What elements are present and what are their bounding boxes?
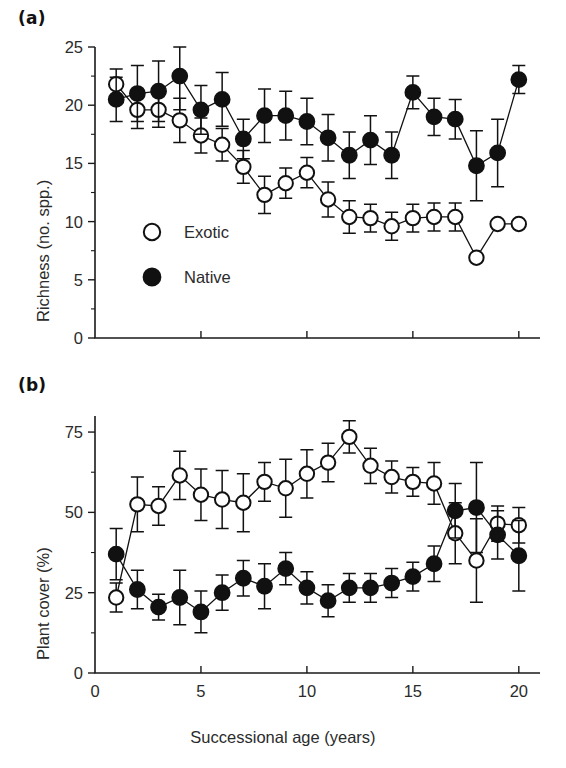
legend-label: Exotic xyxy=(184,223,229,241)
data-point-exotic xyxy=(363,211,377,225)
data-point-native xyxy=(172,69,187,84)
data-point-native xyxy=(215,92,230,107)
data-point-native xyxy=(299,580,314,595)
data-point-native xyxy=(469,158,484,173)
data-point-exotic xyxy=(469,250,483,264)
data-point-exotic xyxy=(448,210,462,224)
panel-b: 025507505101520 xyxy=(65,416,540,700)
x-tick-label: 10 xyxy=(298,682,316,700)
y-tick-label: 75 xyxy=(65,423,83,441)
y-tick-label: 5 xyxy=(74,271,83,289)
data-point-native xyxy=(151,84,166,99)
data-point-native xyxy=(321,593,336,608)
x-tick-label: 15 xyxy=(404,682,422,700)
data-point-exotic xyxy=(363,459,377,473)
x-tick-label: 5 xyxy=(196,682,205,700)
data-point-exotic xyxy=(279,481,293,495)
data-point-native xyxy=(384,575,399,590)
y-tick-label: 25 xyxy=(65,584,83,602)
data-point-native xyxy=(511,548,526,563)
data-point-native xyxy=(490,527,505,542)
data-point-native xyxy=(363,133,378,148)
data-point-exotic xyxy=(151,499,165,513)
data-point-native xyxy=(193,102,208,117)
data-point-native xyxy=(172,590,187,605)
data-point-native xyxy=(342,580,357,595)
x-tick-label: 20 xyxy=(510,682,528,700)
data-point-exotic xyxy=(406,211,420,225)
data-point-exotic xyxy=(342,430,356,444)
data-point-native xyxy=(469,500,484,515)
data-point-exotic xyxy=(173,468,187,482)
data-point-native xyxy=(384,148,399,163)
legend-marker-filled-circle-icon xyxy=(143,268,160,285)
y-tick-label: 10 xyxy=(65,213,83,231)
data-point-native xyxy=(151,600,166,615)
data-point-exotic xyxy=(469,553,483,567)
data-point-exotic xyxy=(279,176,293,190)
data-point-native xyxy=(426,109,441,124)
y-tick-label: 0 xyxy=(74,329,83,347)
data-point-exotic xyxy=(215,492,229,506)
data-point-exotic xyxy=(321,192,335,206)
y-tick-label: 0 xyxy=(74,664,83,682)
legend-item-exotic: Exotic xyxy=(144,223,229,241)
data-point-native xyxy=(109,547,124,562)
data-point-native xyxy=(511,72,526,87)
data-point-native xyxy=(342,148,357,163)
figure-root: (a) (b) Richness (no. spp.) Plant cover … xyxy=(0,0,566,768)
data-point-native xyxy=(321,130,336,145)
data-point-exotic xyxy=(427,210,441,224)
data-point-native xyxy=(109,92,124,107)
data-point-exotic xyxy=(130,497,144,511)
data-point-native xyxy=(299,114,314,129)
data-point-native xyxy=(130,86,145,101)
data-point-exotic xyxy=(236,160,250,174)
data-point-exotic xyxy=(490,217,504,231)
series-exotic xyxy=(109,69,526,265)
data-point-exotic xyxy=(384,470,398,484)
data-point-native xyxy=(236,131,251,146)
y-tick-label: 20 xyxy=(65,96,83,114)
data-point-exotic xyxy=(236,496,250,510)
legend-item-native: Native xyxy=(143,268,230,286)
data-point-exotic xyxy=(194,488,208,502)
data-point-native xyxy=(448,503,463,518)
data-point-exotic xyxy=(215,138,229,152)
panel-a: 0510152025 xyxy=(65,38,540,347)
data-point-native xyxy=(193,604,208,619)
data-point-native xyxy=(490,145,505,160)
series-native xyxy=(109,47,527,201)
data-point-native xyxy=(426,556,441,571)
data-point-exotic xyxy=(300,467,314,481)
data-point-native xyxy=(130,582,145,597)
data-point-native xyxy=(257,579,272,594)
data-point-native xyxy=(215,585,230,600)
axis-spines xyxy=(95,416,540,673)
y-tick-label: 50 xyxy=(65,503,83,521)
data-point-exotic xyxy=(427,476,441,490)
data-point-native xyxy=(363,580,378,595)
data-point-exotic xyxy=(257,475,271,489)
data-point-native xyxy=(236,571,251,586)
data-point-exotic xyxy=(257,188,271,202)
figure-plot-area: 0510152025025507505101520ExoticNative xyxy=(0,0,566,768)
data-point-native xyxy=(278,561,293,576)
y-tick-label: 15 xyxy=(65,154,83,172)
data-point-exotic xyxy=(406,475,420,489)
data-point-exotic xyxy=(173,113,187,127)
data-point-exotic xyxy=(342,210,356,224)
data-point-exotic xyxy=(300,166,314,180)
data-point-native xyxy=(448,112,463,127)
x-tick-label: 0 xyxy=(90,682,99,700)
data-point-native xyxy=(278,108,293,123)
legend-marker-open-circle-icon xyxy=(144,224,160,240)
data-point-native xyxy=(405,569,420,584)
data-point-native xyxy=(405,85,420,100)
y-tick-label: 25 xyxy=(65,38,83,56)
legend: ExoticNative xyxy=(143,223,230,286)
data-point-exotic xyxy=(109,590,123,604)
legend-label: Native xyxy=(184,268,231,286)
data-point-exotic xyxy=(512,217,526,231)
data-point-native xyxy=(257,108,272,123)
